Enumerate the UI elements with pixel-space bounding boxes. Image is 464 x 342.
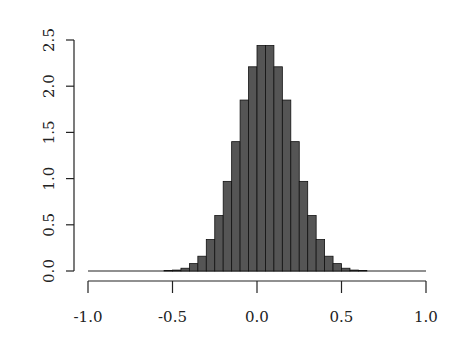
- histogram-bar: [249, 67, 257, 271]
- histogram-bar: [316, 240, 324, 271]
- histogram-bar: [282, 100, 290, 271]
- x-axis: -1.0-0.50.00.51.0: [74, 281, 438, 326]
- histogram-bar: [325, 256, 333, 271]
- y-tick-label: 0.5: [40, 213, 58, 237]
- histogram-chart: 0.00.51.01.52.02.5 -1.0-0.50.00.51.0: [0, 0, 464, 342]
- histogram-bar: [223, 181, 231, 271]
- histogram-bar: [189, 264, 197, 271]
- histogram-bar: [333, 264, 341, 271]
- y-tick-label: 2.0: [40, 74, 58, 98]
- histogram-bar: [265, 46, 273, 271]
- histogram-bar: [350, 270, 358, 271]
- histogram-bar: [342, 268, 350, 271]
- x-tick-label: 0.0: [245, 308, 269, 326]
- y-tick-label: 0.0: [40, 259, 58, 283]
- histogram-bar: [215, 216, 223, 271]
- histogram-bar: [206, 240, 214, 271]
- x-tick-label: 1.0: [414, 308, 438, 326]
- histogram-bar: [240, 100, 248, 271]
- histogram-bar: [173, 270, 181, 271]
- histogram-bars: [88, 46, 426, 271]
- histogram-bar: [299, 181, 307, 271]
- y-tick-label: 1.0: [40, 167, 58, 191]
- x-tick-label: 0.5: [330, 308, 354, 326]
- x-tick-label: -1.0: [74, 308, 103, 326]
- histogram-bar: [257, 46, 265, 271]
- histogram-bar: [274, 67, 282, 271]
- histogram-bar: [291, 142, 299, 271]
- y-axis: 0.00.51.01.52.02.5: [40, 28, 74, 283]
- x-tick-label: -0.5: [158, 308, 187, 326]
- histogram-bar: [198, 256, 206, 271]
- y-tick-label: 2.5: [40, 28, 58, 52]
- histogram-bar: [232, 142, 240, 271]
- y-tick-label: 1.5: [40, 120, 58, 144]
- histogram-bar: [308, 216, 316, 271]
- histogram-bar: [181, 268, 189, 271]
